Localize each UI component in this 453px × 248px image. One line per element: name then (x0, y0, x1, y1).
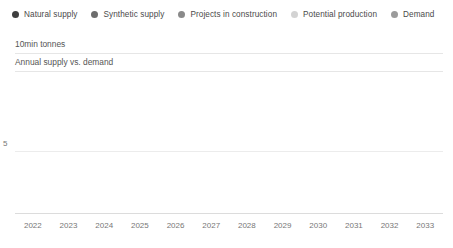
legend-swatch-synthetic-icon (91, 11, 98, 18)
legend-swatch-projects-icon (178, 11, 185, 18)
x-axis-label-2023: 2023 (51, 222, 87, 234)
x-axis-label-2024: 2024 (86, 222, 122, 234)
x-axis-label-2032: 2032 (372, 222, 408, 234)
legend-swatch-potential-icon (291, 11, 298, 18)
chart-legend: Natural supplySynthetic supplyProjects i… (12, 8, 449, 22)
y-axis-unit-label: 10min tonnes (15, 40, 65, 48)
legend-item-demand[interactable]: Demand (391, 11, 434, 19)
legend-label: Natural supply (24, 11, 77, 19)
bar-group-2031 (336, 71, 372, 214)
y-axis-tick-label: 5 (3, 140, 7, 148)
legend-swatch-demand-icon (391, 11, 398, 18)
plot-area: 5 (15, 71, 443, 214)
legend-item-potential[interactable]: Potential production (291, 11, 377, 19)
bar-group-2028 (229, 71, 265, 214)
x-axis-baseline (15, 213, 443, 214)
x-axis-label-2033: 2033 (407, 222, 443, 234)
x-axis-labels: 2022202320242025202620272028202920302031… (15, 222, 443, 234)
x-axis-label-2027: 2027 (193, 222, 229, 234)
header-divider-top (15, 53, 443, 54)
bar-group-2030 (300, 71, 336, 214)
bar-group-2024 (86, 71, 122, 214)
bar-series-container (15, 71, 443, 214)
legend-label: Potential production (303, 11, 377, 19)
legend-label: Synthetic supply (103, 11, 164, 19)
bar-group-2025 (122, 71, 158, 214)
x-axis-label-2026: 2026 (158, 222, 194, 234)
bar-group-2023 (51, 71, 87, 214)
x-axis-label-2022: 2022 (15, 222, 51, 234)
legend-label: Projects in construction (190, 11, 277, 19)
bar-group-2029 (265, 71, 301, 214)
chart-container: Natural supplySynthetic supplyProjects i… (0, 0, 453, 248)
legend-item-natural[interactable]: Natural supply (12, 11, 77, 19)
x-axis-label-2028: 2028 (229, 222, 265, 234)
bar-group-2027 (193, 71, 229, 214)
bar-group-2026 (158, 71, 194, 214)
x-axis-label-2030: 2030 (300, 222, 336, 234)
chart-subtitle: Annual supply vs. demand (15, 58, 113, 66)
bar-group-2033 (407, 71, 443, 214)
legend-item-projects[interactable]: Projects in construction (178, 11, 277, 19)
x-axis-label-2025: 2025 (122, 222, 158, 234)
legend-swatch-natural-icon (12, 11, 19, 18)
x-axis-label-2029: 2029 (265, 222, 301, 234)
bar-group-2032 (372, 71, 408, 214)
legend-item-synthetic[interactable]: Synthetic supply (91, 11, 164, 19)
bar-group-2022 (15, 71, 51, 214)
x-axis-label-2031: 2031 (336, 222, 372, 234)
legend-label: Demand (403, 11, 434, 19)
